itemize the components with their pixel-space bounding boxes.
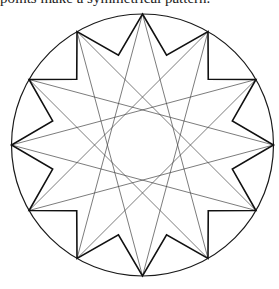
chord-line: [29, 32, 208, 211]
star-diagram: [0, 0, 279, 289]
chord-line: [77, 80, 256, 259]
chord-line: [29, 80, 208, 259]
twelve-point-star-outline: [12, 14, 274, 276]
star-polygon-chords: [12, 14, 274, 276]
bounding-circle: [12, 14, 274, 276]
chord-line: [77, 32, 256, 211]
